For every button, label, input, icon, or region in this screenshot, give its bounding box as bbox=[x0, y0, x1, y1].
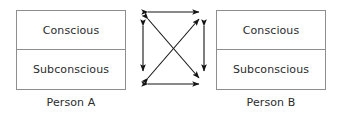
person-a-caption: Person A bbox=[16, 95, 126, 111]
person-b-caption: Person B bbox=[216, 95, 326, 111]
person-b-panel: Conscious Subconscious bbox=[216, 10, 326, 90]
person-b-conscious-layer: Conscious bbox=[217, 11, 325, 50]
diagram-canvas: Conscious Subconscious Person A bbox=[0, 0, 342, 122]
person-a-conscious-layer: Conscious bbox=[17, 11, 125, 50]
person-b-subconscious-layer: Subconscious bbox=[217, 50, 325, 89]
person-b-subconscious-label: Subconscious bbox=[233, 64, 309, 75]
person-a-subconscious-label: Subconscious bbox=[33, 64, 109, 75]
person-b-conscious-label: Conscious bbox=[243, 25, 300, 36]
person-a-panel: Conscious Subconscious bbox=[16, 10, 126, 90]
arrow-network-svg bbox=[126, 0, 218, 96]
person-a-subconscious-layer: Subconscious bbox=[17, 50, 125, 89]
person-a-conscious-label: Conscious bbox=[43, 25, 100, 36]
interaction-arrow-network bbox=[126, 0, 218, 96]
